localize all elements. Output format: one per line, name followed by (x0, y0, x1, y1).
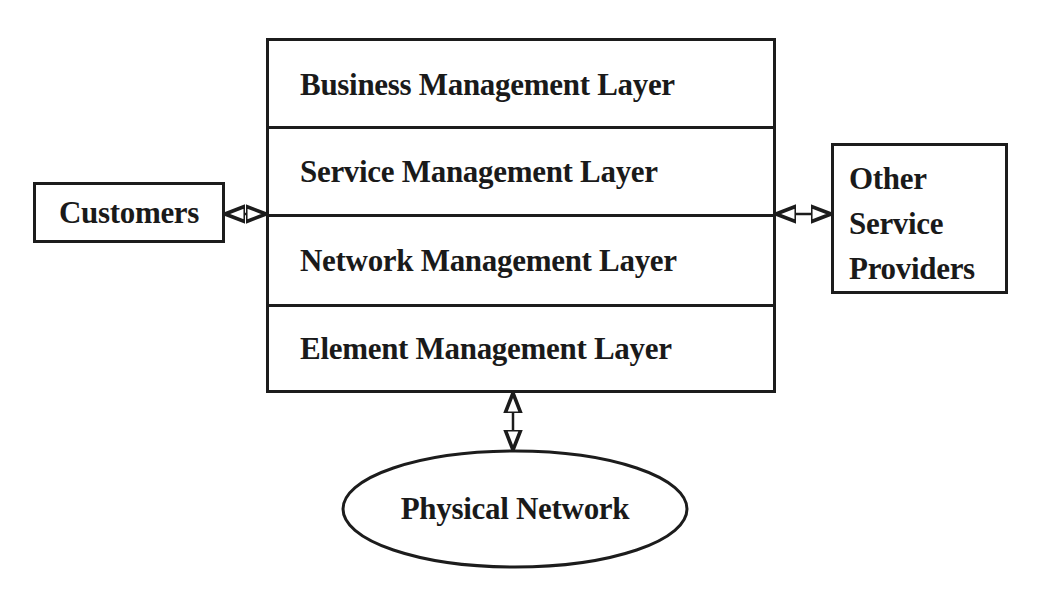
customers-box: Customers (33, 182, 225, 243)
other-service-providers-box: Other Service Providers (831, 143, 1008, 294)
layer-label: Element Management Layer (300, 331, 672, 367)
business-management-layer: Business Management Layer (269, 41, 773, 129)
physical-network-node: Physical Network (342, 450, 688, 568)
providers-label-line-1: Other (849, 156, 1005, 201)
network-management-layers-diagram: Business Management Layer Service Manage… (0, 0, 1038, 594)
physical-network-label: Physical Network (401, 491, 630, 527)
element-management-layer: Element Management Layer (269, 304, 773, 390)
layer-label: Network Management Layer (300, 243, 677, 279)
management-layer-stack: Business Management Layer Service Manage… (266, 38, 776, 393)
providers-label-line-3: Providers (849, 246, 1005, 291)
customers-label: Customers (59, 195, 199, 231)
providers-label-line-2: Service (849, 201, 1005, 246)
layer-label: Business Management Layer (300, 67, 675, 103)
network-management-layer: Network Management Layer (269, 214, 773, 305)
service-management-layer: Service Management Layer (269, 126, 773, 215)
layer-label: Service Management Layer (300, 154, 658, 190)
